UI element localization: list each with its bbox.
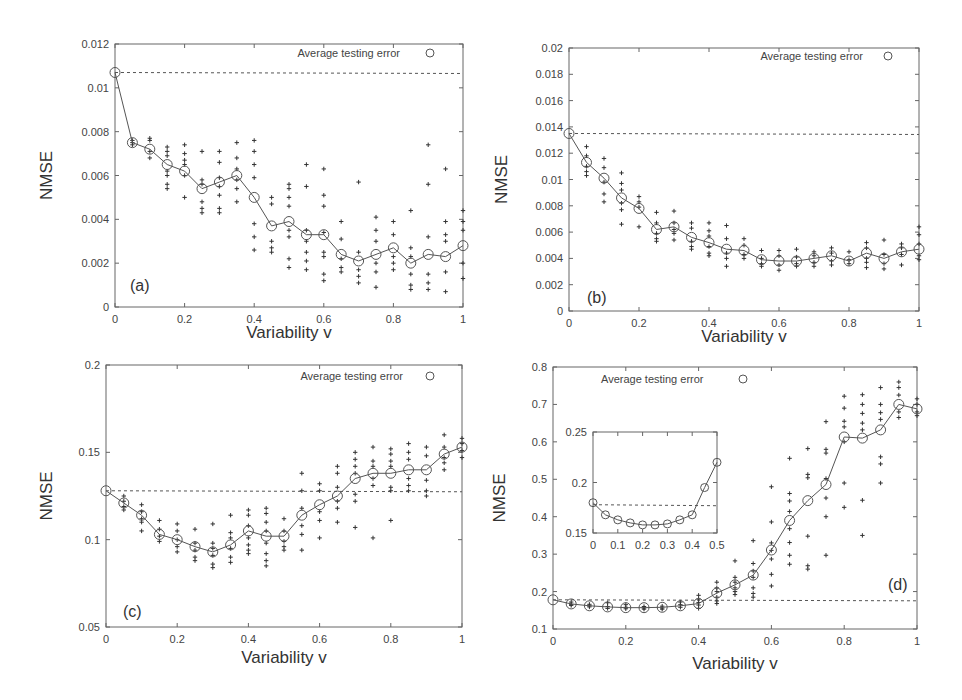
scatter-plus-marker	[602, 165, 606, 169]
x-axis-label: Variability v	[701, 327, 787, 346]
scatter-plus-marker	[165, 186, 169, 190]
scatter-plus-marker	[742, 236, 746, 240]
scatter-plus-marker	[829, 246, 833, 250]
scatter-plus-marker	[672, 209, 676, 213]
x-tick-label: 0.5	[709, 539, 724, 551]
scatter-plus-marker	[252, 162, 256, 166]
y-tick-label: 0.7	[532, 398, 547, 410]
scatter-plus-marker	[619, 208, 623, 212]
scatter-plus-marker	[287, 265, 291, 269]
y-tick-label: 0.15	[566, 527, 587, 539]
scatter-plus-marker	[356, 250, 360, 254]
scatter-plus-marker	[806, 446, 810, 450]
legend-circle-marker	[426, 372, 434, 380]
scatter-plus-marker	[769, 485, 773, 489]
scatter-plus-marker	[287, 257, 291, 261]
scatter-plus-marker	[724, 256, 728, 260]
scatter-plus-marker	[424, 445, 428, 449]
scatter-plus-marker	[353, 492, 357, 496]
scatter-plus-marker	[443, 232, 447, 236]
scatter-plus-marker	[339, 265, 343, 269]
scatter-plus-marker	[829, 263, 833, 267]
scatter-plus-marker	[724, 264, 728, 268]
scatter-plus-marker	[777, 268, 781, 272]
scatter-plus-marker	[264, 564, 268, 568]
scatter-plus-marker	[899, 263, 903, 267]
scatter-plus-marker	[148, 138, 152, 142]
scatter-plus-marker	[769, 520, 773, 524]
legend-circle-marker	[426, 49, 434, 57]
y-tick-label: 0.4	[532, 511, 547, 523]
scatter-plus-marker	[715, 580, 719, 584]
scatter-plus-marker	[715, 595, 719, 599]
scatter-plus-marker	[374, 228, 378, 232]
scatter-plus-marker	[374, 285, 378, 289]
scatter-plus-marker	[878, 385, 882, 389]
scatter-plus-marker	[406, 476, 410, 480]
scatter-plus-marker	[139, 529, 143, 533]
scatter-plus-marker	[787, 509, 791, 513]
y-tick-label: 0.1	[85, 534, 100, 546]
scatter-plus-marker	[339, 219, 343, 223]
scatter-plus-marker	[264, 511, 268, 515]
scatter-plus-marker	[824, 496, 828, 500]
baseline-dashed-line	[569, 133, 919, 134]
x-tick-label: 0.4	[685, 539, 700, 551]
scatter-plus-marker	[759, 248, 763, 252]
scatter-plus-marker	[264, 506, 268, 510]
scatter-plus-marker	[269, 195, 273, 199]
y-tick-label: 0.2	[85, 359, 100, 371]
scatter-plus-marker	[317, 482, 321, 486]
scatter-plus-marker	[264, 551, 268, 555]
y-tick-label: 0.2	[532, 586, 547, 598]
scatter-plus-marker	[602, 156, 606, 160]
scatter-plus-marker	[165, 173, 169, 177]
scatter-plus-marker	[860, 421, 864, 425]
scatter-plus-marker	[715, 601, 719, 605]
scatter-plus-marker	[769, 572, 773, 576]
scatter-plus-marker	[287, 228, 291, 232]
scatter-plus-marker	[461, 228, 465, 232]
scatter-plus-marker	[235, 200, 239, 204]
scatter-plus-marker	[374, 261, 378, 265]
scatter-plus-marker	[228, 513, 232, 517]
figure-canvas: 00.20.40.60.8100.0020.0040.0060.0080.010…	[0, 0, 962, 700]
scatter-plus-marker	[443, 289, 447, 293]
scatter-plus-marker	[165, 182, 169, 186]
scatter-plus-marker	[300, 532, 304, 536]
scatter-plus-marker	[217, 206, 221, 210]
y-tick-label: 0.012	[81, 38, 109, 50]
scatter-plus-marker	[211, 565, 215, 569]
scatter-plus-marker	[878, 462, 882, 466]
x-tick-label: 0	[550, 635, 556, 647]
y-tick-label: 0.15	[79, 446, 100, 458]
scatter-plus-marker	[619, 181, 623, 185]
scatter-plus-marker	[353, 457, 357, 461]
y-tick-label: 0.006	[535, 226, 563, 238]
scatter-plus-marker	[787, 526, 791, 530]
scatter-plus-marker	[193, 527, 197, 531]
scatter-plus-marker	[269, 202, 273, 206]
scatter-plus-marker	[733, 592, 737, 596]
y-axis-label: NMSE	[37, 471, 56, 520]
y-axis-label: NMSE	[37, 151, 56, 200]
chart-panel-d-inset: 00.10.20.30.40.50.150.20.25	[566, 426, 725, 551]
scatter-plus-marker	[165, 149, 169, 153]
scatter-plus-marker	[322, 250, 326, 254]
scatter-plus-marker	[897, 380, 901, 384]
scatter-plus-marker	[812, 254, 816, 258]
scatter-plus-marker	[864, 265, 868, 269]
scatter-plus-marker	[148, 156, 152, 160]
x-tick-label: 0.6	[764, 635, 779, 647]
scatter-plus-marker	[165, 145, 169, 149]
scatter-plus-marker	[689, 221, 693, 225]
scatter-plus-marker	[193, 558, 197, 562]
x-tick-label: 0.2	[635, 539, 650, 551]
scatter-plus-marker	[182, 143, 186, 147]
scatter-plus-marker	[424, 454, 428, 458]
scatter-plus-marker	[584, 144, 588, 148]
scatter-plus-marker	[602, 200, 606, 204]
y-tick-label: 0.25	[566, 426, 587, 438]
scatter-plus-marker	[787, 456, 791, 460]
x-axis-label: Variability v	[692, 654, 778, 673]
